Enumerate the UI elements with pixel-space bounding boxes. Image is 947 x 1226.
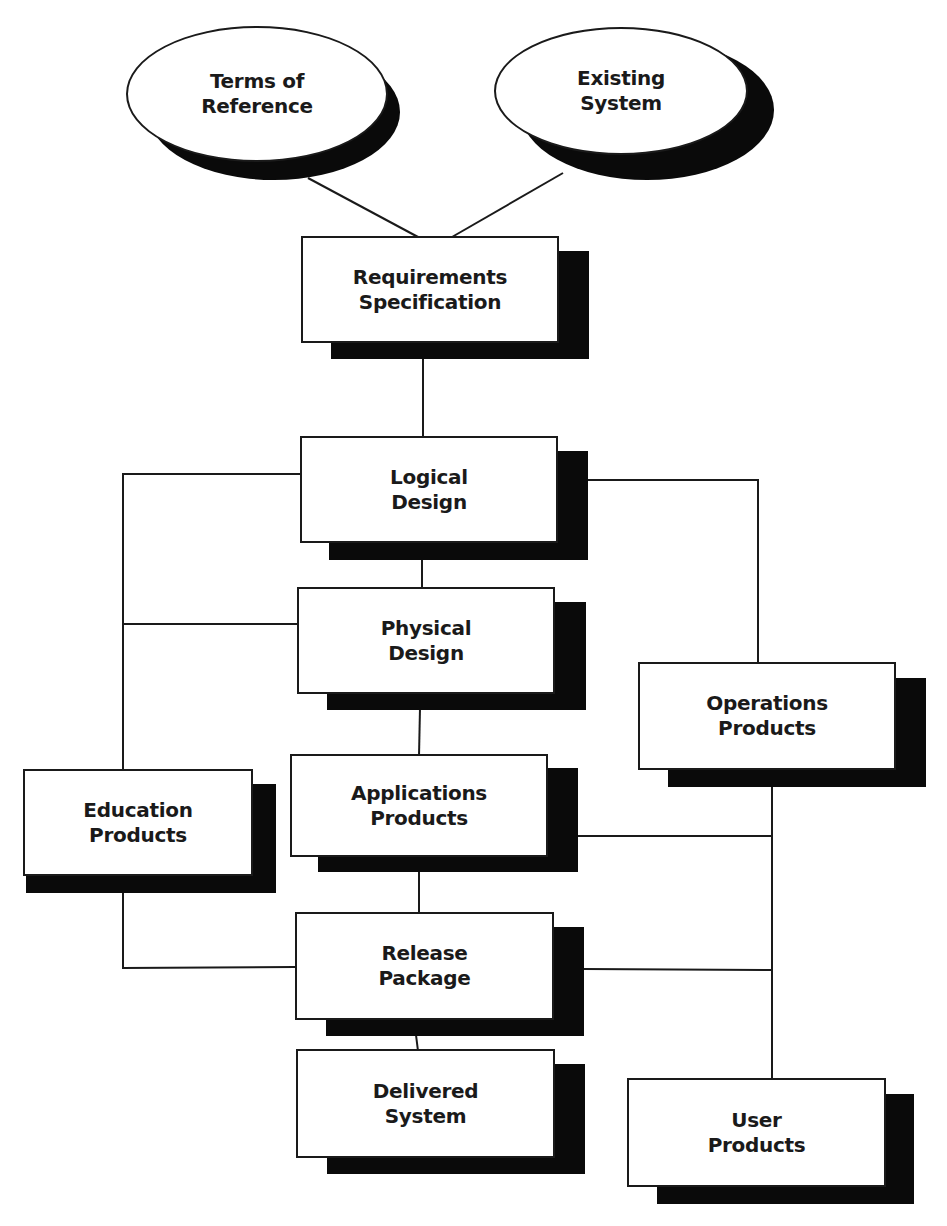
- terms-of-reference-label: Terms of Reference: [201, 69, 313, 119]
- applications-products-node[interactable]: Applications Products: [290, 754, 548, 857]
- existing-system-node[interactable]: Existing System: [494, 27, 748, 155]
- delivered-system-label: Delivered System: [373, 1079, 479, 1129]
- user-products-label: User Products: [708, 1108, 806, 1158]
- release-package-node[interactable]: Release Package: [295, 912, 554, 1020]
- edge-physical-to-applications: [419, 708, 420, 756]
- delivered-system-node[interactable]: Delivered System: [296, 1049, 555, 1158]
- applications-products-label: Applications Products: [351, 781, 487, 831]
- education-products-label: Education Products: [83, 798, 192, 848]
- operations-products-label: Operations Products: [706, 691, 828, 741]
- operations-products-node[interactable]: Operations Products: [638, 662, 896, 770]
- requirements-specification-node[interactable]: Requirements Specification: [301, 236, 559, 343]
- edge-logical-to-education: [123, 474, 301, 770]
- education-products-node[interactable]: Education Products: [23, 769, 253, 876]
- edge-education-to-release: [123, 892, 295, 968]
- physical-design-node[interactable]: Physical Design: [297, 587, 555, 694]
- edge-logical-to-operations: [588, 480, 758, 663]
- diagram-canvas: Terms of Reference Existing System Requi…: [0, 0, 947, 1226]
- release-package-label: Release Package: [378, 941, 470, 991]
- user-products-node[interactable]: User Products: [627, 1078, 886, 1187]
- logical-design-node[interactable]: Logical Design: [300, 436, 558, 543]
- terms-of-reference-node[interactable]: Terms of Reference: [126, 26, 388, 162]
- edge-release-to-trunk: [584, 969, 772, 970]
- edge-existing-to-requirements: [452, 173, 563, 237]
- logical-design-label: Logical Design: [390, 465, 468, 515]
- physical-design-label: Physical Design: [381, 616, 472, 666]
- requirements-specification-label: Requirements Specification: [353, 265, 507, 315]
- edge-terms-to-requirements: [308, 178, 418, 237]
- existing-system-label: Existing System: [577, 66, 665, 116]
